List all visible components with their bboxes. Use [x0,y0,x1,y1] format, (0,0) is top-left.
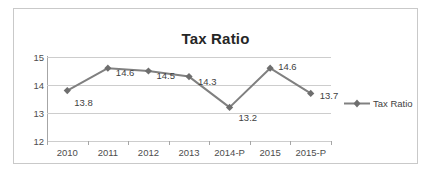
legend-marker-icon [344,98,370,109]
data-point-label: 14.6 [116,67,135,78]
data-point-label: 14.5 [156,70,175,81]
data-point-label: 14.3 [198,75,217,86]
data-point-label: 14.6 [278,61,297,72]
legend-label-tax-ratio: Tax Ratio [373,98,413,109]
chart-legend: Tax Ratio [344,98,413,109]
data-point-label: 13.2 [239,112,258,123]
data-point-label: 13.7 [320,90,339,101]
series-line-tax-ratio [0,0,433,179]
data-point-label: 13.8 [74,96,93,107]
